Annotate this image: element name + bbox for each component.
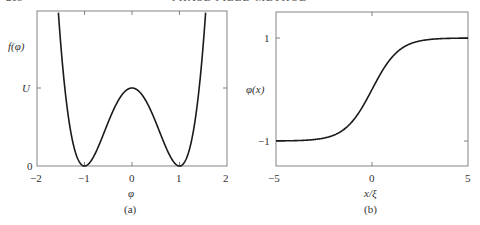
xtick-a-3: 1 [176,172,182,184]
ytick-zero: 0 [27,160,33,172]
xtick-a-4: 2 [223,172,229,184]
panel-a: f(φ) U 0 −2 −1 0 1 2 φ (a) [8,11,229,216]
tanh-profile-curve [276,38,468,141]
figure: f(φ) U 0 −2 −1 0 1 2 φ (a) 1 φ(x) −1 −5 … [0,0,480,225]
double-well-curve [58,13,205,166]
ylabel-a: f(φ) [8,40,25,53]
xtick-b-1: 0 [369,172,375,184]
xtick-a-0: −2 [30,172,42,184]
ytick-neg: −1 [258,135,270,147]
xtick-a-2: 0 [129,172,135,184]
xlabel-a: φ [128,187,134,199]
xtick-a-1: −1 [78,172,90,184]
ytick-pos: 1 [264,32,270,44]
panel-b: 1 φ(x) −1 −5 0 5 x/ξ (b) [246,12,471,216]
xlabel-b: x/ξ [363,187,377,200]
xtick-b-2: 5 [465,172,471,184]
xtick-b-0: −5 [268,172,280,184]
ylabel-b: φ(x) [246,83,265,96]
caption-b: (b) [364,203,377,216]
caption-a: (a) [124,203,137,216]
ytick-u: U [22,82,31,94]
